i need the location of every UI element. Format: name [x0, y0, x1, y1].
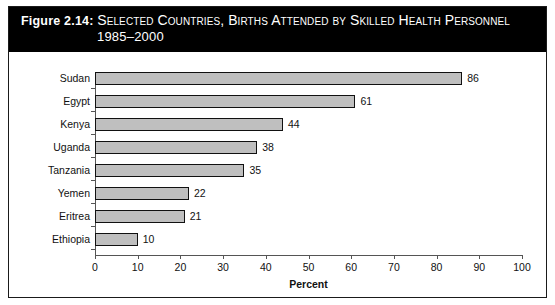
x-axis-tick-label: 60 [331, 261, 371, 273]
bar[interactable] [95, 72, 462, 85]
bar-value-label: 22 [194, 186, 206, 200]
category-label: Sudan [0, 72, 90, 85]
bar-row: Yemen22 [9, 187, 546, 210]
bar[interactable] [95, 95, 355, 108]
x-axis-tick-label: 100 [502, 261, 542, 273]
x-axis-tick-label: 20 [160, 261, 200, 273]
x-axis-tick [394, 255, 395, 259]
x-axis-tick-label: 70 [374, 261, 414, 273]
bar-value-label: 61 [360, 94, 372, 108]
x-axis-tick-label: 90 [459, 261, 499, 273]
bar-value-label: 38 [262, 140, 274, 154]
bar[interactable] [95, 210, 185, 223]
x-axis-tick-label: 30 [203, 261, 243, 273]
figure-title-band: Figure 2.14: Selected Countries, Births … [9, 7, 546, 52]
category-label: Tanzania [0, 164, 90, 177]
bar-row: Egypt61 [9, 95, 546, 118]
bar[interactable] [95, 233, 138, 246]
figure-title-text: Selected Countries, Births Attended by S… [97, 12, 510, 28]
y-axis-tick [91, 226, 95, 227]
bar-value-label: 10 [143, 232, 155, 246]
y-axis-tick [91, 249, 95, 250]
y-axis-tick [91, 134, 95, 135]
bar-value-label: 44 [288, 117, 300, 131]
figure-number-label: Figure 2.14: [21, 14, 94, 28]
bar[interactable] [95, 141, 257, 154]
bar[interactable] [95, 187, 189, 200]
x-axis-tick-label: 0 [75, 261, 115, 273]
x-axis-tick-label: 10 [118, 261, 158, 273]
category-label: Egypt [0, 95, 90, 108]
x-axis-tick [309, 255, 310, 259]
category-label: Kenya [0, 118, 90, 131]
x-axis-tick [522, 255, 523, 259]
x-axis-tick [437, 255, 438, 259]
bar-row: Uganda38 [9, 141, 546, 164]
category-label: Yemen [0, 187, 90, 200]
y-axis-tick [91, 180, 95, 181]
bar-row: Sudan86 [9, 72, 546, 95]
x-axis-title: Percent [95, 278, 522, 290]
bar-row: Eritrea21 [9, 210, 546, 233]
bar-value-label: 86 [467, 71, 479, 85]
bar[interactable] [95, 164, 244, 177]
x-axis-tick [223, 255, 224, 259]
bar-row: Ethiopia10 [9, 233, 546, 256]
x-axis-tick [180, 255, 181, 259]
figure-title-line-1: Figure 2.14: Selected Countries, Births … [21, 12, 536, 29]
category-label: Eritrea [0, 210, 90, 223]
x-axis-tick-label: 40 [246, 261, 286, 273]
x-axis-tick [479, 255, 480, 259]
x-axis-tick [95, 255, 96, 259]
y-axis-tick [91, 88, 95, 89]
bar-value-label: 21 [190, 209, 202, 223]
figure-title-line-2: 1985–2000 [21, 29, 536, 45]
y-axis-tick [91, 111, 95, 112]
figure-container: Figure 2.14: Selected Countries, Births … [0, 0, 555, 305]
x-axis-tick [138, 255, 139, 259]
x-axis-tick [351, 255, 352, 259]
x-axis-tick-label: 80 [417, 261, 457, 273]
x-axis-tick-label: 50 [289, 261, 329, 273]
category-label: Ethiopia [0, 233, 90, 246]
y-axis-tick [91, 203, 95, 204]
x-axis-tick [266, 255, 267, 259]
plot-area: Sudan86Egypt61Kenya44Uganda38Tanzania35Y… [9, 52, 546, 297]
category-label: Uganda [0, 141, 90, 154]
bar-row: Kenya44 [9, 118, 546, 141]
bar-row: Tanzania35 [9, 164, 546, 187]
bar-value-label: 35 [249, 163, 261, 177]
bar[interactable] [95, 118, 283, 131]
y-axis-tick [91, 157, 95, 158]
